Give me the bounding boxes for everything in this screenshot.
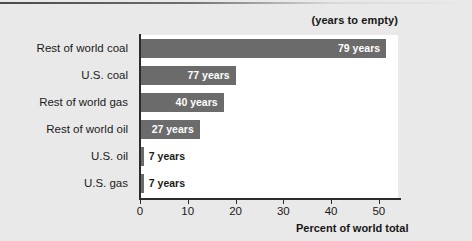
bar-value-label-rest-of-world-gas: 40 years xyxy=(176,93,218,112)
bar-row-us-oil: 7 years xyxy=(140,143,398,170)
x-tick-label-20: 20 xyxy=(229,205,242,217)
bar-row-rest-of-world-coal: 79 years xyxy=(140,35,398,62)
bar-row-rest-of-world-oil: 27 years xyxy=(140,116,398,143)
bar-value-label-us-gas: 7 years xyxy=(149,174,185,193)
bar-row-rest-of-world-gas: 40 years xyxy=(140,89,398,116)
x-tick-30 xyxy=(283,198,284,204)
x-axis-line xyxy=(139,198,401,200)
y-axis-line xyxy=(139,34,141,200)
page-top-rule xyxy=(0,2,472,4)
bar-value-label-us-oil: 7 years xyxy=(149,147,185,166)
x-tick-0 xyxy=(140,198,141,204)
x-tick-label-10: 10 xyxy=(181,205,194,217)
x-tick-10 xyxy=(188,198,189,204)
category-label-us-gas: U.S. gas xyxy=(0,170,134,197)
x-tick-label-50: 50 xyxy=(372,205,385,217)
x-axis-title: Percent of world total xyxy=(296,222,408,234)
x-tick-40 xyxy=(331,198,332,204)
category-label-rest-of-world-coal: Rest of world coal xyxy=(0,35,134,62)
category-label-rest-of-world-oil: Rest of world oil xyxy=(0,116,134,143)
bar-value-label-rest-of-world-coal: 79 years xyxy=(338,39,380,58)
x-tick-20 xyxy=(236,198,237,204)
category-label-us-coal: U.S. coal xyxy=(0,62,134,89)
bar-value-label-us-coal: 77 years xyxy=(188,66,230,85)
plot-area: 79 years 77 years 40 years 27 years 7 ye… xyxy=(140,35,398,198)
chart-header-note: (years to empty) xyxy=(311,14,398,26)
chart-figure: (years to empty) Rest of world coal U.S.… xyxy=(0,0,472,241)
category-axis-labels: Rest of world coal U.S. coal Rest of wor… xyxy=(0,35,134,198)
x-tick-label-0: 0 xyxy=(137,205,143,217)
x-tick-50 xyxy=(379,198,380,204)
bar-row-us-gas: 7 years xyxy=(140,170,398,197)
category-label-rest-of-world-gas: Rest of world gas xyxy=(0,89,134,116)
x-tick-label-40: 40 xyxy=(325,205,338,217)
x-tick-label-30: 30 xyxy=(277,205,290,217)
bar-value-label-rest-of-world-oil: 27 years xyxy=(152,120,194,139)
bar-row-us-coal: 77 years xyxy=(140,62,398,89)
category-label-us-oil: U.S. oil xyxy=(0,143,134,170)
